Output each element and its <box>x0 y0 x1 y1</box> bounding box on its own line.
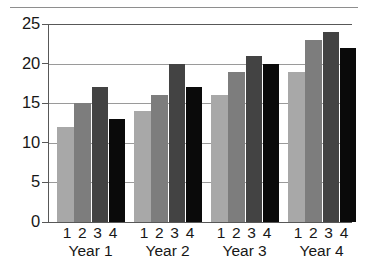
bar <box>74 103 91 222</box>
bar <box>323 32 340 222</box>
y-axis-label-0: 0 <box>2 213 40 230</box>
bar <box>263 64 280 222</box>
bar <box>151 95 168 222</box>
bar <box>57 127 74 222</box>
bar <box>305 40 322 222</box>
y-axis-label-25: 25 <box>2 15 40 32</box>
y-axis-labels: 0510152025 <box>0 0 40 267</box>
bar <box>340 48 357 222</box>
y-axis-label-5: 5 <box>2 173 40 190</box>
y-axis-label-10: 10 <box>2 134 40 151</box>
bar <box>246 56 263 222</box>
plot-area <box>48 24 352 222</box>
bar <box>169 64 186 222</box>
bar-group <box>211 24 280 222</box>
bar <box>186 87 203 222</box>
bar-group <box>288 24 357 222</box>
x-axis-series-ticks: 1 2 3 4 <box>127 225 208 241</box>
bar <box>134 111 151 222</box>
y-axis-label-15: 15 <box>2 94 40 111</box>
x-axis-series-ticks: 1 2 3 4 <box>281 225 362 241</box>
bar <box>211 95 228 222</box>
bar <box>288 72 305 222</box>
bar <box>92 87 109 222</box>
y-axis-label-20: 20 <box>2 55 40 72</box>
x-axis-group-label: Year 4 <box>273 243 366 259</box>
bar <box>109 119 126 222</box>
x-axis-series-ticks: 1 2 3 4 <box>204 225 285 241</box>
bar-group <box>57 24 126 222</box>
bar-chart-figure: 0510152025 1 2 3 4Year 11 2 3 4Year 21 2… <box>0 0 366 267</box>
bar-group <box>134 24 203 222</box>
bar <box>228 72 245 222</box>
x-axis-series-ticks: 1 2 3 4 <box>50 225 131 241</box>
